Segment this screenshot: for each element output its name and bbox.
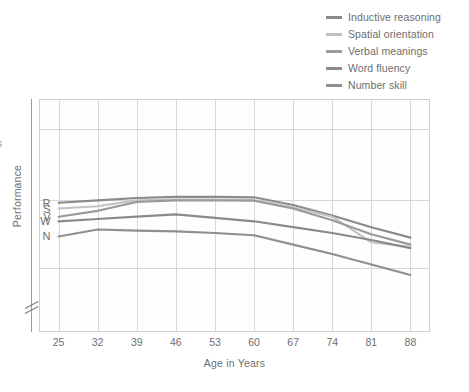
series-lines [39,99,430,332]
x-tick-label: 88 [395,336,425,348]
chart-legend: Inductive reasoning Spatial orientation … [326,9,469,94]
legend-label: Inductive reasoning [348,9,441,25]
edge-text-fragment: s [0,138,2,149]
x-tick-label: 32 [83,336,113,348]
legend-swatch-icon [326,33,342,36]
x-tick-label: 46 [161,336,191,348]
legend-item-verbal-meanings: Verbal meanings [326,43,469,59]
legend-label: Spatial orientation [348,26,434,42]
x-axis-label: Age in Years [39,357,430,369]
legend-swatch-icon [326,67,342,70]
y-axis-label: Performance [11,131,23,261]
x-tick-label: 53 [200,336,230,348]
x-tick-label: 67 [278,336,308,348]
x-tick-label: 74 [317,336,347,348]
legend-swatch-icon [326,50,342,53]
legend-item-number-skill: Number skill [326,77,469,93]
legend-swatch-icon [326,16,342,19]
legend-item-spatial-orientation: Spatial orientation [326,26,469,42]
chart-figure: s Inductive reasoning Spatial orientatio… [0,0,469,392]
x-tick-label: 39 [122,336,152,348]
x-tick-label: 25 [44,336,74,348]
legend-label: Number skill [348,77,407,93]
legend-swatch-icon [326,84,342,87]
y-axis-line [31,99,32,332]
plot-area [39,99,430,332]
legend-item-word-fluency: Word fluency [326,60,469,76]
legend-label: Word fluency [348,60,410,76]
line-series-w [59,214,411,248]
x-axis-ticks: 25323946536067748188 [39,336,430,352]
legend-item-inductive-reasoning: Inductive reasoning [326,9,469,25]
legend-label: Verbal meanings [348,43,428,59]
x-tick-label: 81 [356,336,386,348]
line-series-n [59,229,411,274]
x-tick-label: 60 [239,336,269,348]
